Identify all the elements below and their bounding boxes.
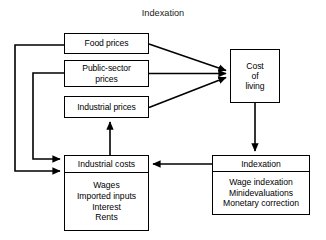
node-cost-of-living[interactable]: Cost of living [230,49,280,103]
diagram-title: Indexation [0,7,326,19]
node-industrial-costs[interactable]: Industrial costs Wages Imported inputs I… [64,155,149,231]
node-industrial-prices[interactable]: Industrial prices [64,96,149,118]
node-indexation-header: Indexation [213,156,309,172]
edge-public-sector-prices-feedback-to-industrial-costs [33,73,64,159]
node-industrial-costs-header: Industrial costs [65,156,148,173]
edge-food-prices-feedback-to-industrial-costs [15,45,64,171]
node-industrial-prices-label: Industrial prices [77,102,135,112]
node-food-prices[interactable]: Food prices [64,33,149,54]
node-cost-of-living-label: Cost of living [246,61,265,92]
diagram-canvas: Indexation Food prices Public-sector pri… [0,0,326,240]
node-public-sector-prices[interactable]: Public-sector prices [64,60,149,87]
node-indexation[interactable]: Indexation Wage indexation Minidevaluati… [212,155,310,215]
node-indexation-items: Wage indexation Minidevaluations Monetar… [213,172,309,214]
node-industrial-costs-items: Wages Imported inputs Interest Rents [65,173,148,230]
node-food-prices-label: Food prices [85,38,129,48]
node-public-sector-prices-label: Public-sector prices [82,63,130,83]
edge-industrial-prices-to-cost-of-living [149,78,226,108]
edge-food-prices-to-cost-of-living [149,44,226,71]
